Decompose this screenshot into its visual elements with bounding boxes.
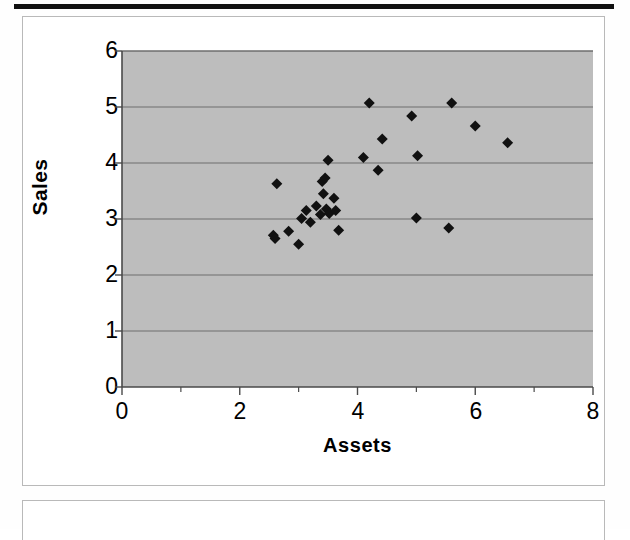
next-figure-frame bbox=[22, 500, 605, 540]
y-axis-title: Sales bbox=[28, 117, 52, 257]
scatter-chart: Sales Assets 6 5 4 3 2 1 0 0 2 4 6 8 bbox=[0, 0, 630, 500]
data-point bbox=[411, 212, 422, 223]
data-point bbox=[283, 226, 294, 237]
x-tick-label-8: 8 bbox=[573, 400, 613, 423]
data-point bbox=[377, 133, 388, 144]
x-tick-label-0: 0 bbox=[102, 400, 142, 423]
gridlines bbox=[122, 51, 593, 331]
x-tick-label-2: 2 bbox=[220, 400, 260, 423]
plot-canvas bbox=[122, 51, 593, 387]
data-point bbox=[412, 150, 423, 161]
data-point bbox=[293, 239, 304, 250]
y-tick-label-5: 5 bbox=[84, 95, 118, 118]
x-tick-label-6: 6 bbox=[456, 400, 496, 423]
y-tick-label-0: 0 bbox=[84, 375, 118, 398]
data-markers bbox=[268, 98, 513, 250]
y-tick-label-1: 1 bbox=[84, 319, 118, 342]
y-tick-label-4: 4 bbox=[84, 151, 118, 174]
y-tick-label-2: 2 bbox=[84, 263, 118, 286]
plot-region bbox=[122, 51, 593, 387]
data-point bbox=[323, 155, 334, 166]
data-point bbox=[443, 222, 454, 233]
data-point bbox=[271, 178, 282, 189]
data-point bbox=[406, 110, 417, 121]
data-point bbox=[502, 137, 513, 148]
data-point bbox=[358, 152, 369, 163]
data-point bbox=[470, 121, 481, 132]
data-point bbox=[333, 225, 344, 236]
data-point bbox=[318, 188, 329, 199]
data-point bbox=[328, 193, 339, 204]
data-point bbox=[373, 165, 384, 176]
x-tick-label-4: 4 bbox=[338, 400, 378, 423]
y-tick-label-6: 6 bbox=[84, 39, 118, 62]
y-tick-label-3: 3 bbox=[84, 207, 118, 230]
x-axis-title: Assets bbox=[122, 434, 593, 457]
